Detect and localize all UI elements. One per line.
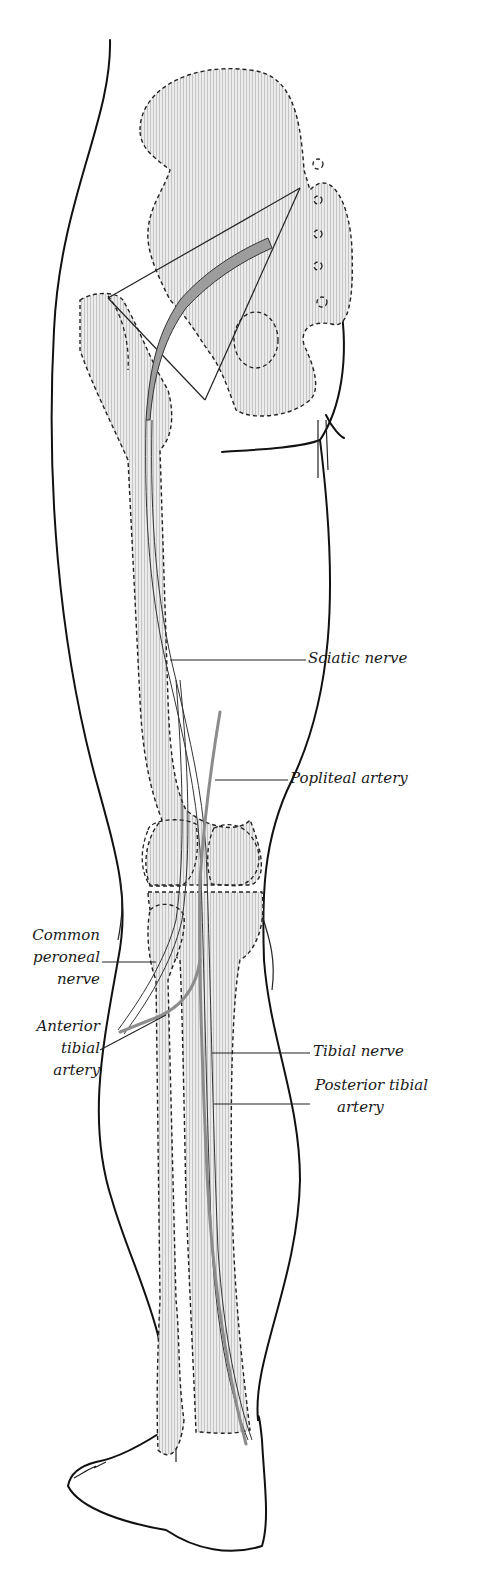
label-anterior-tibial-artery-1: Anterior (10, 1017, 100, 1036)
label-common-peroneal-nerve-2: peroneal (10, 948, 100, 967)
label-anterior-tibial-artery-2: tibial (10, 1039, 100, 1058)
label-popliteal-artery: Popliteal artery (290, 769, 408, 788)
label-posterior-tibial-artery-1: Posterior tibial (315, 1076, 428, 1095)
label-sciatic-nerve: Sciatic nerve (308, 649, 407, 668)
label-posterior-tibial-artery-2: artery (337, 1098, 384, 1117)
label-common-peroneal-nerve-3: nerve (10, 970, 100, 989)
label-anterior-tibial-artery-3: artery (10, 1061, 100, 1080)
label-tibial-nerve: Tibial nerve (313, 1042, 404, 1061)
label-common-peroneal-nerve-1: Common (10, 926, 100, 945)
